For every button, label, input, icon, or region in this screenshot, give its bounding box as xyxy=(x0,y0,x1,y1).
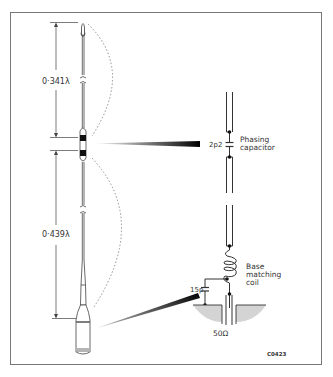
diagram-frame xyxy=(11,13,322,365)
pointer-to-phasing-capacitor xyxy=(92,141,200,147)
dimension-upper-label: 0·341λ xyxy=(42,77,70,86)
phasing-unit xyxy=(80,128,86,161)
antenna-base xyxy=(76,305,90,354)
base-coil-label-3: coil xyxy=(246,278,259,287)
coil-bottom-node xyxy=(228,292,232,296)
phasing-node-top xyxy=(228,130,232,134)
coil-top-node xyxy=(228,244,232,248)
current-distribution-upper xyxy=(88,24,113,136)
phasing-band-2 xyxy=(80,150,86,156)
figure-code: C0423 xyxy=(267,351,287,357)
phasing-capacitor-value: 2p2 xyxy=(209,141,222,149)
phasing-capacitor-label-2: capacitor xyxy=(240,143,276,152)
antenna-taper xyxy=(81,260,86,285)
phasing-band-1 xyxy=(80,135,86,141)
antenna-diagram: 0·341λ 0·439λ 2p2 Phasing capacitor xyxy=(0,0,333,377)
current-distribution-lower xyxy=(92,158,122,307)
ground-plane-left xyxy=(193,305,222,322)
phasing-node-bottom xyxy=(228,155,232,159)
base-capacitor-value: 15p xyxy=(190,286,204,294)
pointer-to-base-circuit xyxy=(97,293,200,328)
feed-impedance-label: 50Ω xyxy=(213,329,229,338)
phasing-section xyxy=(226,92,234,246)
ground-plane-right xyxy=(236,305,266,322)
dimension-lower-label: 0·439λ xyxy=(42,230,70,239)
coil-tap-node xyxy=(225,277,229,281)
